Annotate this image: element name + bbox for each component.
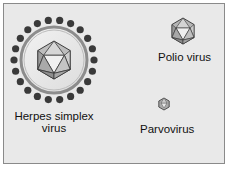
herpes-virus-icon bbox=[8, 14, 100, 106]
parvovirus-icon bbox=[157, 97, 171, 111]
polio-virus-icon bbox=[170, 17, 196, 45]
herpes-virus-label-line1: Herpes simplex bbox=[14, 110, 94, 122]
parvovirus-label: Parvovirus bbox=[140, 123, 192, 135]
herpes-virus-label-line2: virus bbox=[14, 122, 94, 134]
polio-virus-label: Polio virus bbox=[158, 51, 210, 63]
